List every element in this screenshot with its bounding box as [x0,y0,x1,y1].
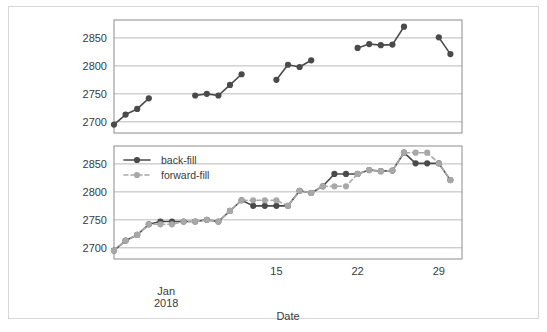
xaxis-period-month: Jan [157,285,175,297]
chart-canvas: 27002750280028502700275028002850152229Ja… [0,0,547,332]
datapoint-forward-fill-14 [262,197,268,203]
datapoint-back-fill-14 [262,203,268,209]
datapoint-forward-fill-1 [111,248,117,254]
datapoint-forward-fill-29 [436,160,442,166]
chart-figure: 27002750280028502700275028002850152229Ja… [0,0,547,332]
datapoint-back-fill-10 [215,92,221,98]
datapoint-back-fill-12 [239,71,245,77]
datapoint-forward-fill-27 [413,150,419,156]
datapoint-forward-fill-19 [320,183,326,189]
datapoint-forward-fill-10 [215,218,221,224]
datapoint-forward-fill-21 [343,183,349,189]
datapoint-back-fill-24 [378,42,384,48]
datapoint-forward-fill-20 [331,183,337,189]
datapoint-forward-fill-4 [146,221,152,227]
datapoint-back-fill-26 [401,24,407,30]
ytick-label-2750: 2750 [83,88,107,100]
datapoint-back-fill-15 [273,77,279,83]
datapoint-back-fill-3 [134,106,140,112]
datapoint-back-fill-28 [424,160,430,166]
datapoint-forward-fill-9 [204,217,210,223]
datapoint-forward-fill-7 [181,218,187,224]
datapoint-back-fill-4 [146,95,152,101]
datapoint-forward-fill-23 [366,167,372,173]
xaxis-period-year: 2018 [154,297,178,309]
datapoint-forward-fill-18 [308,190,314,196]
datapoint-back-fill-13 [250,203,256,209]
datapoint-back-fill-11 [227,82,233,88]
ytick-label-2850: 2850 [83,32,107,44]
datapoint-forward-fill-8 [192,218,198,224]
datapoint-back-fill-16 [285,62,291,68]
datapoint-forward-fill-6 [169,221,175,227]
datapoint-forward-fill-12 [239,197,245,203]
datapoint-forward-fill-24 [378,168,384,174]
datapoint-forward-fill-11 [227,208,233,214]
datapoint-back-fill-20 [331,171,337,177]
datapoint-back-fill-23 [366,41,372,47]
datapoint-forward-fill-3 [134,232,140,238]
xaxis-title: Date [276,310,299,322]
datapoint-forward-fill-13 [250,197,256,203]
ytick-label-2850: 2850 [83,158,107,170]
panel-top-panel: 2700275028002850 [83,20,462,133]
datapoint-back-fill-2 [123,111,129,117]
chart-legend: back-fillforward-fill [124,154,209,181]
datapoint-back-fill-17 [297,64,303,70]
legend-marker-forward-fill [134,172,140,178]
datapoint-forward-fill-22 [355,171,361,177]
ytick-label-2700: 2700 [83,242,107,254]
datapoint-forward-fill-30 [447,177,453,183]
ytick-label-2750: 2750 [83,214,107,226]
datapoint-forward-fill-15 [273,197,279,203]
legend-label-forward-fill: forward-fill [161,169,209,181]
datapoint-back-fill-27 [413,160,419,166]
datapoint-back-fill-30 [447,51,453,57]
xtick-label-29: 29 [433,265,445,277]
datapoint-back-fill-21 [343,171,349,177]
series-line-back-fill-seg1 [195,74,241,95]
datapoint-back-fill-25 [389,42,395,48]
datapoint-back-fill-15 [273,203,279,209]
datapoint-forward-fill-5 [157,221,163,227]
datapoint-back-fill-29 [436,34,442,40]
datapoint-back-fill-9 [204,91,210,97]
panel-bottom-panel: 2700275028002850152229Jan2018Dateback-fi… [83,146,462,322]
ytick-label-2800: 2800 [83,60,107,72]
datapoint-forward-fill-2 [123,237,129,243]
series-line-forward-fill-seg0 [114,153,450,251]
xtick-label-15: 15 [270,265,282,277]
plot-frame-top-panel [114,20,462,133]
datapoint-back-fill-8 [192,92,198,98]
datapoint-forward-fill-25 [389,168,395,174]
ytick-label-2700: 2700 [83,116,107,128]
datapoint-forward-fill-16 [285,203,291,209]
legend-marker-back-fill [134,157,140,163]
ytick-label-2800: 2800 [83,186,107,198]
legend-label-back-fill: back-fill [161,154,197,166]
datapoint-forward-fill-28 [424,150,430,156]
series-line-back-fill-seg0 [114,153,450,251]
datapoint-forward-fill-17 [297,188,303,194]
datapoint-forward-fill-26 [401,150,407,156]
xtick-label-22: 22 [351,265,363,277]
series-line-back-fill-seg0 [114,98,149,124]
series-line-back-fill-seg2 [276,60,311,80]
datapoint-back-fill-18 [308,57,314,63]
datapoint-back-fill-1 [111,122,117,128]
datapoint-back-fill-22 [355,45,361,51]
